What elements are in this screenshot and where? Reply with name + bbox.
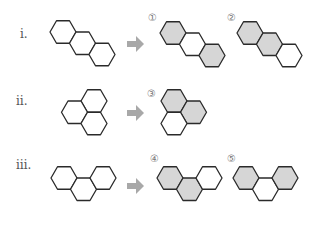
- row-label-iii: ⅲ.: [16, 158, 31, 172]
- hexagon-structures: [50, 21, 302, 201]
- row-label-ii: ⅱ.: [16, 94, 28, 108]
- option-number-1: ①: [148, 12, 157, 23]
- option-number-3: ③: [147, 88, 156, 99]
- row-label-i: ⅰ.: [20, 27, 28, 41]
- option-①-ring-3: [199, 44, 225, 67]
- option-number-2: ②: [227, 12, 236, 23]
- option-⑤-ring-3: [272, 167, 298, 190]
- row-2-original-ring-3: [81, 112, 107, 135]
- row-1-original-ring-3: [89, 43, 115, 66]
- diagram-canvas: ⅰ. ⅱ. ⅲ. ① ② ③ ④ ⑤: [0, 0, 314, 227]
- arrow-icon-row-ii: [127, 105, 144, 121]
- row-3-original-ring-3: [90, 167, 116, 190]
- arrow-icon-row-i: [127, 36, 144, 52]
- option-number-4: ④: [150, 153, 159, 164]
- arrow-icon-row-iii: [127, 178, 144, 194]
- option-②-ring-3: [276, 44, 302, 67]
- option-number-5: ⑤: [227, 153, 236, 164]
- option-③-ring-3: [161, 112, 187, 135]
- option-④-ring-3: [196, 167, 222, 190]
